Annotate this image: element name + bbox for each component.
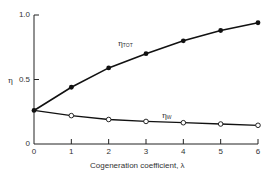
data-point [106, 117, 111, 122]
data-point [69, 113, 74, 118]
series-label-eta-w: ηW [162, 111, 172, 122]
series-lines [32, 20, 261, 127]
x-axis-label: Cogeneration coefficient, λ [90, 161, 185, 170]
data-point [256, 20, 261, 25]
y-tick-label: 0 [6, 139, 30, 148]
data-point [106, 65, 111, 70]
data-point [181, 38, 186, 43]
x-tick-label: 4 [177, 147, 189, 156]
series-line-eta-tot [34, 23, 258, 111]
data-point [144, 119, 149, 124]
data-point [144, 51, 149, 56]
series-label-sub: TOT [123, 42, 133, 48]
data-point [256, 123, 261, 128]
x-tick-label: 5 [215, 147, 227, 156]
data-point [32, 108, 37, 113]
data-point [218, 122, 223, 127]
x-tick-label: 1 [65, 147, 77, 156]
y-tick-label: 0.5 [6, 75, 30, 84]
data-point [181, 120, 186, 125]
chart-plot-area [0, 0, 269, 179]
series-label-sub: W [167, 114, 172, 120]
x-tick-label: 6 [252, 147, 264, 156]
x-tick-label: 0 [28, 147, 40, 156]
x-tick-label: 3 [140, 147, 152, 156]
x-tick-label: 2 [103, 147, 115, 156]
y-tick-label: 1.0 [6, 10, 30, 19]
data-point [69, 85, 74, 90]
series-label-eta-tot: ηTOT [118, 39, 133, 50]
data-point [218, 28, 223, 33]
